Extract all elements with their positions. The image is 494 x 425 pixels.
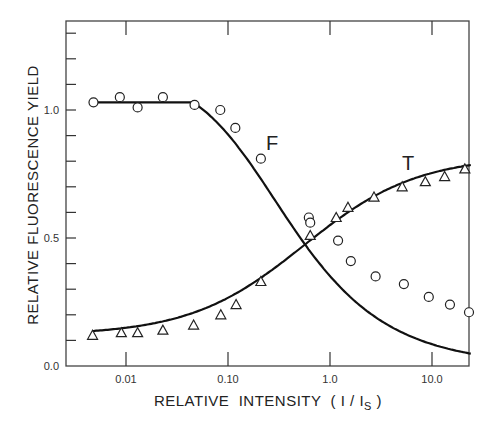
plot-frame bbox=[66, 21, 469, 366]
f-data-point-circle bbox=[371, 272, 380, 281]
t-data-point-triangle bbox=[231, 300, 241, 309]
y-tick-label: 1.0 bbox=[44, 104, 59, 116]
f-data-point-circle bbox=[424, 292, 433, 301]
f-data-point-circle bbox=[346, 257, 355, 266]
x-axis-title-close: ) bbox=[372, 392, 382, 409]
t-data-point-triangle bbox=[133, 328, 143, 337]
x-tick-label: 0.01 bbox=[115, 373, 136, 385]
series-label-f: F bbox=[266, 132, 278, 154]
f-data-point-circle bbox=[158, 93, 167, 102]
f-data-point-circle bbox=[334, 236, 343, 245]
f-data-point-circle bbox=[216, 106, 225, 115]
f-data-point-circle bbox=[445, 300, 454, 309]
f-data-point-circle bbox=[231, 123, 240, 132]
f-fit-curve bbox=[94, 102, 471, 353]
x-tick-label: 0.10 bbox=[217, 373, 238, 385]
t-data-point-triangle bbox=[189, 320, 199, 329]
y-tick-label: 0.5 bbox=[44, 232, 59, 244]
f-data-point-circle bbox=[399, 280, 408, 289]
f-data-point-circle bbox=[190, 100, 199, 109]
t-fit-curve bbox=[93, 165, 471, 331]
f-data-point-circle bbox=[133, 103, 142, 112]
f-data-point-circle bbox=[89, 98, 98, 107]
y-axis-title: RELATIVE FLUORESCENCE YIELD bbox=[24, 65, 41, 325]
f-data-point-circle bbox=[465, 308, 474, 317]
y-axis: 0.00.51.0 bbox=[44, 33, 76, 372]
series-markers bbox=[88, 93, 474, 340]
fluorescence-yield-chart: 0.010.101.010.0 0.00.51.0 F T RELATIVE I… bbox=[0, 0, 494, 425]
t-data-point-triangle bbox=[420, 177, 430, 186]
plot-border bbox=[66, 21, 469, 366]
x-tick-label: 10.0 bbox=[421, 373, 442, 385]
x-axis-title-main: RELATIVE INTENSITY ( I / I bbox=[154, 392, 364, 409]
t-data-point-triangle bbox=[216, 310, 226, 319]
x-tick-label: 1.0 bbox=[322, 373, 337, 385]
t-data-point-triangle bbox=[158, 325, 168, 334]
f-data-point-circle bbox=[256, 154, 265, 163]
t-data-point-triangle bbox=[440, 172, 450, 181]
t-data-point-triangle bbox=[343, 202, 353, 211]
y-tick-label: 0.0 bbox=[44, 360, 59, 372]
x-axis-title: RELATIVE INTENSITY ( I / IS ) bbox=[154, 392, 382, 412]
t-data-point-triangle bbox=[305, 230, 315, 239]
series-label-t: T bbox=[402, 152, 414, 174]
f-data-point-circle bbox=[306, 218, 315, 227]
series-curves bbox=[93, 102, 471, 353]
f-data-point-circle bbox=[115, 93, 124, 102]
x-axis-title-subscript: S bbox=[364, 400, 372, 412]
